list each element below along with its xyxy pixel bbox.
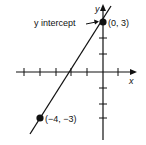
x-axis (16, 68, 137, 76)
x-axis-arrow-icon (130, 69, 137, 75)
point-label-top: (0, 3) (108, 18, 129, 28)
x-axis-label: x (128, 76, 134, 86)
coordinate-plane: y x y intercept (0, 3) (−4, −3) (0, 0, 146, 145)
y-intercept-arrow-icon (86, 20, 99, 25)
point-label-bottom: (−4, −3) (45, 114, 77, 124)
y-axis-arrow-icon (100, 4, 106, 11)
y-axis-label: y (94, 4, 100, 14)
point-neg4-neg3 (36, 114, 43, 121)
y-intercept-annotation: y intercept (34, 18, 76, 28)
point-y-intercept (99, 18, 106, 25)
